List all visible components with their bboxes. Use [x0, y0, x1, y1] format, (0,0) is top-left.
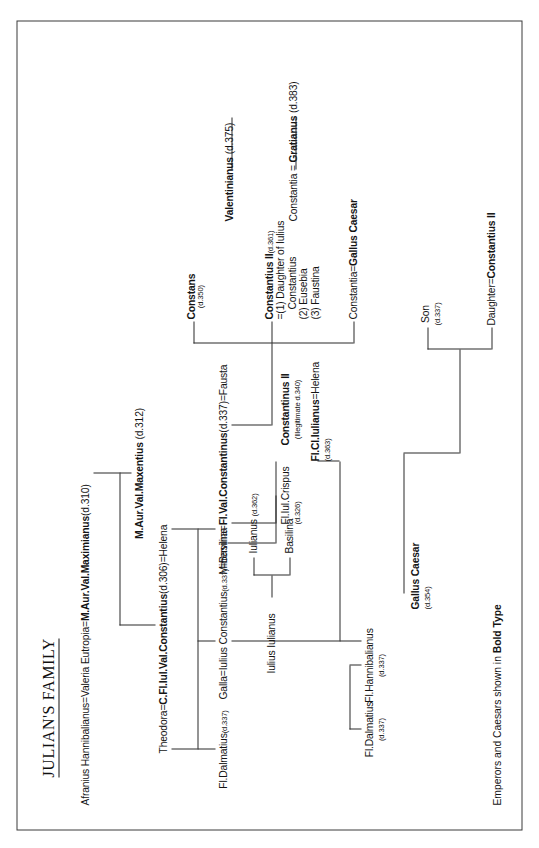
- constantius-ii-wife3: (3) Faustina: [309, 266, 320, 319]
- rotated-chart-wrapper: JULIAN'S FAMILY Afranius Hannibalianus=V…: [0, 0, 539, 848]
- constantius-ii-name: Constantius II: [263, 253, 274, 319]
- connector-to-constantia-gallus: [353, 321, 354, 343]
- constantius-ii-date: (d.361): [265, 230, 274, 253]
- iulianus-362-date: (d.362): [249, 493, 258, 516]
- constantius-ii-wife2: (2) Eusebia: [297, 268, 308, 319]
- gallus-caesar-name: Gallus Caesar: [409, 542, 420, 609]
- constantinus-ii-sub: (Illegitimate d.340): [292, 379, 301, 438]
- fl-dalmatius-2-name: Fl.Dalmatius: [363, 701, 374, 756]
- gen1-date: (d.310): [79, 484, 90, 516]
- fl-cl-iulianus-tail: =Helena: [309, 361, 320, 399]
- valentinianus-name: Valentinianus: [223, 157, 234, 221]
- constantius-chlorus-name: C.Fl.Iul.Val.Constantius: [157, 593, 168, 704]
- connector-fausta-children-spine: [193, 342, 353, 343]
- connector-iuliusiulianus-bar: [253, 574, 289, 575]
- constantia-label: Constantia=: [347, 265, 358, 319]
- connector-gallus-children-spine: [427, 348, 491, 349]
- connector-galla-children-bar: [339, 461, 340, 641]
- daughter-spouse-name: Constantius II: [485, 212, 496, 278]
- fl-hannibalianus-date: (d.337): [376, 654, 385, 677]
- crispus-date: (d.326): [292, 501, 301, 524]
- fl-dalmatius-2-date: (d.337): [376, 717, 385, 740]
- crispus-name: Fl.Iul.Crispus: [279, 466, 290, 524]
- gallus-caesar-date: (d.354): [422, 586, 431, 609]
- chart-border-frame: JULIAN'S FAMILY Afranius Hannibalianus=V…: [16, 20, 522, 830]
- theodora-name: Theodora=: [157, 704, 168, 753]
- connector-fausta-drop: [231, 424, 271, 425]
- node-theodora-constantius: Theodora=C.Fl.Iul.Val.Constantius(d.306)…: [157, 524, 168, 753]
- page-title: JULIAN'S FAMILY: [39, 638, 59, 777]
- gen1-bold-name: M.Aur.Val.Maximianus: [79, 515, 90, 620]
- son-name: Son: [419, 305, 430, 323]
- constans-date: (d.350): [196, 273, 204, 319]
- node-fl-hannibalianus: Fl.Hannibalianus (d.337): [363, 628, 386, 702]
- legend-note: Emperors and Caesars shown in Bold Type: [491, 604, 502, 805]
- connector-minervina-to-crispus: [275, 495, 276, 543]
- connector-to-constantinus: [197, 528, 215, 529]
- node-daughter-constantius: Daughter=Constantius II: [485, 212, 496, 325]
- constantinus-date: (d.337)=Fausta: [217, 364, 228, 432]
- node-maxentius: M.Aur.Val.Maxentius (d.312): [133, 407, 144, 538]
- constantinus-ii-name: Constantinus II: [279, 373, 290, 445]
- node-constantia-gratianus: Constantia = Gratianus (d.383): [287, 81, 298, 221]
- connector-gallus-line: [403, 453, 404, 593]
- connector-to-iulianus: [253, 557, 254, 575]
- connector-dalmatius-son1: [349, 728, 361, 729]
- connector-to-constantius-ii: [271, 321, 272, 343]
- connector-theodora-drop: [171, 748, 197, 749]
- fl-dalmatius-1-date: (d.337): [219, 710, 228, 733]
- connector-gallus-children-drop: [403, 452, 459, 453]
- connector-to-dalmatius2: [339, 640, 361, 641]
- connector-minervina-drop: [227, 542, 275, 543]
- legend-note-text: Emperors and Caesars shown in: [491, 653, 502, 805]
- connector-to-theodora: [119, 624, 155, 625]
- iulius-iulianus-name: Iulius Iulianus: [265, 613, 276, 673]
- constans-name: Constans: [185, 273, 196, 319]
- node-generation1: Afranius Hannibalianus=Valeria Eutropia=…: [79, 484, 90, 805]
- page-canvas: JULIAN'S FAMILY Afranius Hannibalianus=V…: [0, 0, 539, 848]
- connector-to-constans: [193, 321, 194, 343]
- connector-to-daughter: [491, 327, 492, 349]
- connector-to-son: [427, 327, 428, 349]
- fl-dalmatius-1-name: Fl.Dalmatius: [217, 733, 228, 788]
- gen1-text: Afranius Hannibalianus=Valeria Eutropia=: [79, 621, 90, 805]
- connector-dalmatius-sons-bar: [349, 665, 350, 729]
- son-date: (d.337): [432, 302, 441, 325]
- valentinianus-date: (d.375): [223, 122, 234, 154]
- connector-gallus-children-bar: [459, 349, 460, 453]
- fl-cl-iulianus-name: Fl.Cl.Iulianus: [309, 399, 320, 461]
- constantinus-name: Fl.Val.Constantinus: [217, 432, 228, 525]
- legend-note-bold: Bold Type: [491, 604, 502, 653]
- connector-to-basilina: [289, 557, 290, 575]
- connector-dalmatius-son2: [349, 664, 361, 665]
- maxentius-name: M.Aur.Val.Maxentius: [133, 442, 144, 539]
- iulianus-362-name: Iulianus: [247, 519, 258, 553]
- gallus-caesar-ref: Gallus Caesar: [347, 199, 358, 266]
- node-constans: Constans (d.350): [185, 273, 205, 319]
- constantius-chlorus-date: (d.306)=Helena: [157, 524, 168, 593]
- connector-gratianus-line: [295, 117, 296, 169]
- node-fl-dalmatius-2: Fl.Dalmatius (d.337): [363, 701, 386, 756]
- connector-gen1-bar-left: [119, 473, 120, 625]
- fl-cl-iulianus-date: (d.363): [322, 438, 331, 461]
- node-constantia-gallus: Constantia=Gallus Caesar: [347, 199, 358, 319]
- node-crispus: Fl.Iul.Crispus (d.326): [279, 466, 302, 524]
- maxentius-date: (d.312): [133, 407, 144, 439]
- gratianus-date: (d.383): [287, 81, 298, 113]
- node-iulius-iulianus: Iulius Iulianus: [265, 613, 276, 673]
- connector-to-galla: [197, 640, 215, 641]
- fl-hannibalianus-name: Fl.Hannibalianus: [363, 628, 374, 702]
- constantius-ii-wife1b: Constantius: [286, 256, 297, 319]
- connector-fausta-bar: [271, 343, 272, 425]
- node-valentinianus: Valentinianus (d.375): [223, 122, 234, 221]
- connector-to-maxentius: [119, 472, 131, 473]
- galla-name: Galla=Iulius Constantius: [217, 591, 228, 699]
- connector-iulius-constantius-drop: [231, 522, 275, 523]
- node-fl-cl-iulianus: Fl.Cl.Iulianus=Helena (d.363): [309, 361, 332, 461]
- connector-galla-drop: [231, 640, 339, 641]
- connector-iuliusiulianus-out: [271, 575, 272, 597]
- daughter-label: Daughter=: [485, 278, 496, 325]
- connector-to-dalmatius1: [197, 748, 215, 749]
- constantius-ii-wife1a: =(1) Daughter of Iulius: [274, 220, 285, 319]
- node-fl-dalmatius-1: Fl.Dalmatius(d.337): [217, 710, 228, 788]
